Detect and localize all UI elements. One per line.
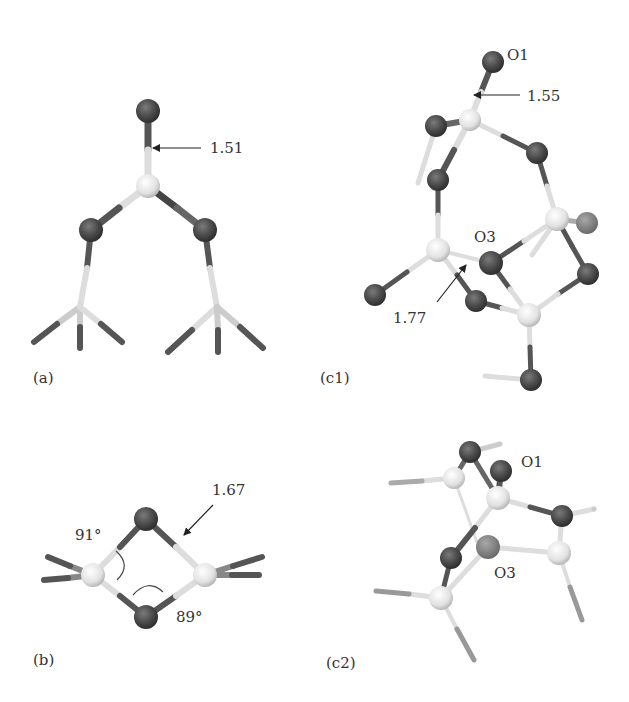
silicon-atom [429,586,453,610]
panel-label: (c2) [326,654,356,672]
figure-canvas: 1.51 (a) [0,0,629,702]
silicon-atom [547,541,571,565]
oxygen-atom [134,605,158,629]
panel-label: (c1) [320,369,350,387]
oxygen-atom-o1 [482,51,504,73]
oxygen-atom [193,218,217,242]
silicon-atom [486,486,510,510]
angle-arc [133,586,163,595]
oxygen-atom [551,505,573,527]
oxygen-atom-o1 [490,460,512,482]
silicon-atom [426,238,450,262]
silicon-atom [517,303,541,327]
oxygen-atom [526,142,548,164]
angle-label: 91° [75,526,102,544]
oxygen-atom-o3 [479,251,503,275]
oxygen-atom [427,169,449,191]
silicon-atom [136,174,160,198]
oxygen-atom [79,218,103,242]
panel-label: (b) [33,651,54,669]
atom-label-o3: O3 [474,228,496,246]
oxygen-atom [465,290,487,312]
atom-label-o1: O1 [507,46,529,64]
silicon-atom [459,109,481,131]
bond-length-label: 1.77 [393,309,426,327]
bond-length-label: 1.55 [527,87,560,105]
atom-label-o3: O3 [494,564,516,582]
oxygen-atom [577,263,599,285]
oxygen-atom [459,441,481,463]
oxygen-atom [520,369,542,391]
oxygen-atom-o3 [476,535,500,559]
oxygen-atom [425,115,447,137]
panel-label: (a) [33,369,54,387]
atom-label-o1: O1 [521,453,543,471]
angle-label: 89° [176,608,203,626]
bond-arrow [184,505,213,535]
panel-a: 1.51 (a) [33,99,263,387]
silicon-atom [193,563,217,587]
oxygen-atom [134,507,158,531]
oxygen-atom [440,547,462,569]
panel-c1: O1 1.55 O3 1.77 (c1) [320,46,599,391]
panel-c2: O1 O3 (c2) [326,441,594,672]
oxygen-atom [364,284,386,306]
panel-b: 1.67 91° 89° (b) [33,481,262,669]
silicon-atom [81,563,105,587]
bond-length-label: 1.67 [212,481,245,499]
oxygen-atom [576,212,598,234]
oxygen-atom [136,99,160,123]
silicon-atom [545,207,569,231]
silicon-atom [443,467,465,489]
angle-arc [116,551,124,580]
bond-length-label: 1.51 [210,139,243,157]
